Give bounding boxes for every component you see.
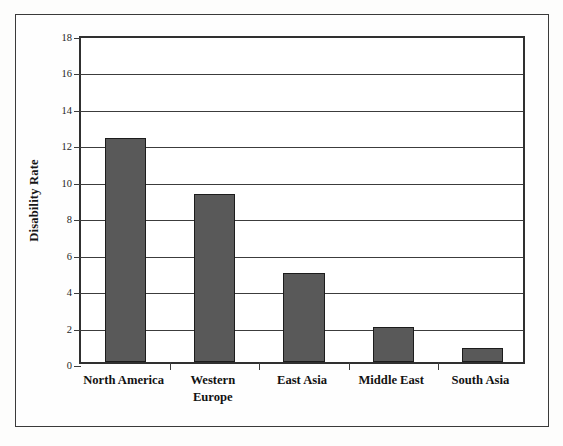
y-axis-tick <box>74 366 81 367</box>
y-axis-tick-label: 6 <box>67 251 72 262</box>
y-axis-tick <box>74 147 81 148</box>
y-axis-tick-label: 16 <box>62 69 73 80</box>
chart-figure: Disability Rate 024681012141618 North Am… <box>0 0 563 446</box>
gridline <box>81 111 523 112</box>
y-axis-tick <box>74 293 81 294</box>
x-axis-category-label-line: East Asia <box>277 373 327 387</box>
y-axis-tick-label: 2 <box>67 324 72 335</box>
x-axis-category-label-line: South Asia <box>452 373 510 387</box>
bar <box>373 327 414 362</box>
bar <box>462 348 503 362</box>
x-axis-category-label: North America <box>79 370 168 426</box>
bar <box>194 194 235 362</box>
gridline <box>81 147 523 148</box>
y-axis-tick <box>74 220 81 221</box>
x-axis-tick <box>438 362 439 370</box>
gridline <box>81 74 523 75</box>
y-axis-tick-label: 14 <box>62 106 73 117</box>
y-axis-tick-label: 8 <box>67 215 72 226</box>
y-axis-tick-label: 4 <box>67 288 72 299</box>
x-axis-tick <box>170 362 171 370</box>
gridline <box>81 257 523 258</box>
x-axis-labels: North AmericaWesternEuropeEast AsiaMiddl… <box>79 370 525 426</box>
y-axis-tick-label: 18 <box>62 33 73 44</box>
gridline <box>81 220 523 221</box>
x-axis-category-label: Middle East <box>347 370 436 426</box>
x-axis-category-label-line: Middle East <box>358 373 423 387</box>
y-axis-tick <box>74 38 81 39</box>
x-axis-category-label: South Asia <box>436 370 525 426</box>
y-axis-title-label: Disability Rate <box>27 159 42 242</box>
y-axis-tick <box>74 257 81 258</box>
x-axis-category-label: East Asia <box>257 370 346 426</box>
y-axis-tick <box>74 74 81 75</box>
y-axis-tick-label: 12 <box>62 142 73 153</box>
y-axis-title: Disability Rate <box>26 36 42 364</box>
bar <box>283 273 324 362</box>
x-axis-category-label-line: Europe <box>168 389 257 406</box>
x-axis-category-label-line: North America <box>83 373 164 387</box>
gridline <box>81 184 523 185</box>
y-axis-tick <box>74 111 81 112</box>
y-axis-tick-label: 0 <box>67 361 72 372</box>
bar <box>105 138 146 362</box>
y-axis-tick <box>74 330 81 331</box>
y-axis-tick-label: 10 <box>62 179 73 190</box>
x-axis-tick <box>259 362 260 370</box>
x-axis-tick <box>349 362 350 370</box>
y-axis-tick <box>74 184 81 185</box>
x-axis-category-label-line: Western <box>190 373 235 387</box>
plot-area: 024681012141618 <box>79 36 525 364</box>
x-axis-category-label: WesternEurope <box>168 370 257 426</box>
